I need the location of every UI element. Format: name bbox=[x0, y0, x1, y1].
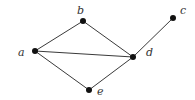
node-label-d: d bbox=[146, 46, 153, 59]
node-label-c: c bbox=[180, 4, 186, 17]
edge-a-b bbox=[35, 21, 83, 51]
node-c bbox=[170, 15, 176, 21]
edge-a-d bbox=[35, 51, 133, 57]
node-d bbox=[130, 54, 136, 60]
node-a bbox=[32, 48, 38, 54]
edge-a-e bbox=[35, 51, 89, 90]
edge-e-d bbox=[89, 57, 133, 90]
node-e bbox=[86, 87, 92, 93]
node-label-e: e bbox=[97, 85, 104, 98]
edge-b-d bbox=[83, 21, 133, 57]
node-label-b: b bbox=[77, 4, 84, 17]
node-b bbox=[80, 18, 86, 24]
node-label-a: a bbox=[18, 46, 25, 59]
graph-diagram: abcde bbox=[0, 0, 195, 100]
nodes bbox=[32, 15, 176, 93]
labels: abcde bbox=[18, 4, 186, 98]
